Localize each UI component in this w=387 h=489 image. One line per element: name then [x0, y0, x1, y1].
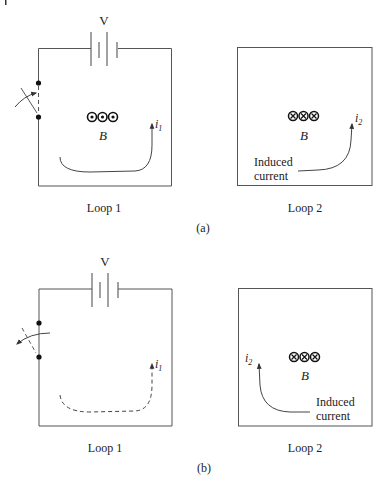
magnetic-field-into-page-icon	[289, 112, 319, 121]
battery-label: V	[100, 254, 110, 269]
loop-1-wire	[39, 289, 172, 426]
induced-label-line-2: current	[316, 409, 351, 423]
switch-closing-icon	[15, 80, 41, 119]
current-arrow-dashed	[60, 364, 152, 412]
magnetic-field-into-page-icon	[290, 353, 320, 362]
panel-b-loop-2: B i2 Induced current	[239, 289, 373, 427]
battery-label: V	[99, 13, 109, 28]
loop-2-caption: Loop 2	[288, 201, 322, 215]
field-label: B	[99, 128, 107, 143]
panel-a-loop-2: B i2 Induced current	[238, 48, 373, 186]
induced-label-line-1: Induced	[316, 395, 355, 409]
induced-current-symbol: i2	[355, 111, 362, 127]
field-label: B	[301, 368, 309, 383]
panel-b: V i1 B i2 Induced current	[17, 254, 372, 475]
current-label: i1	[155, 117, 162, 133]
panel-a-loop-1: V B i1	[15, 13, 172, 186]
page-corner-mark	[5, 0, 7, 5]
field-label: B	[300, 128, 308, 143]
panel-caption: (a)	[196, 221, 209, 235]
loop-1-wire	[39, 49, 172, 187]
current-label: i1	[155, 357, 162, 373]
induced-current-symbol: i2	[245, 351, 252, 367]
loop-2-caption: Loop 2	[288, 441, 322, 455]
switch-opening-icon	[17, 320, 50, 359]
loop-1-caption: Loop 1	[87, 201, 121, 215]
induced-label-line-2: current	[254, 169, 289, 183]
panel-caption: (b)	[197, 461, 211, 475]
induced-label-line-1: Induced	[254, 155, 293, 169]
panel-a: V B i1	[15, 13, 372, 235]
faraday-induction-figure: V B i1	[0, 0, 387, 489]
panel-b-loop-1: V i1	[17, 254, 172, 426]
loop-1-caption: Loop 1	[88, 441, 122, 455]
battery-icon	[92, 273, 118, 307]
magnetic-field-out-of-page-icon	[88, 113, 118, 122]
battery-icon	[91, 32, 117, 66]
